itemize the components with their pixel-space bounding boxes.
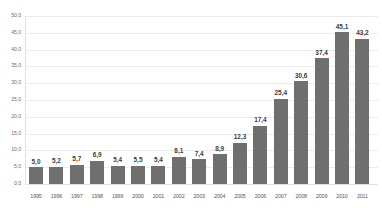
- bar-value-label: 5,4: [154, 157, 163, 163]
- bar-group[interactable]: 30,6: [294, 16, 308, 184]
- bar-group[interactable]: 43,2: [355, 16, 369, 184]
- bar-group[interactable]: 45,1: [335, 16, 349, 184]
- y-tick-label: 20,0: [11, 114, 21, 119]
- bar[interactable]: [111, 166, 125, 184]
- x-axis: 1995199619971998199920002001200220032004…: [26, 186, 378, 206]
- bar-group[interactable]: 8,1: [172, 16, 186, 184]
- x-tick-label: 1997: [66, 194, 88, 199]
- x-tick-label: 2006: [249, 194, 271, 199]
- y-tick-label: 0,0: [14, 181, 21, 186]
- bar[interactable]: [335, 32, 349, 184]
- bar-value-label: 25,4: [275, 90, 287, 96]
- x-tick-label: 2009: [311, 194, 333, 199]
- bar-value-label: 43,2: [356, 30, 368, 36]
- bar-group[interactable]: 17,4: [253, 16, 267, 184]
- bar[interactable]: [274, 99, 288, 184]
- x-tick-label: 2011: [351, 194, 373, 199]
- x-tick-label: 1999: [107, 194, 129, 199]
- x-tick-label: 2007: [270, 194, 292, 199]
- bar[interactable]: [90, 161, 104, 184]
- bar-value-label: 30,6: [295, 73, 307, 79]
- bar-chart: 0,05,010,015,020,025,030,035,040,045,050…: [0, 0, 382, 208]
- x-tick-label: 2010: [331, 194, 353, 199]
- bar[interactable]: [253, 126, 267, 184]
- y-tick-label: 15,0: [11, 131, 21, 136]
- bar-group[interactable]: 5,0: [29, 16, 43, 184]
- gridline: [26, 184, 378, 185]
- plot-area: 5,05,25,76,95,45,55,48,17,48,912,317,425…: [26, 16, 378, 184]
- bar-value-label: 5,2: [52, 158, 61, 164]
- bar-group[interactable]: 5,4: [151, 16, 165, 184]
- bar[interactable]: [192, 159, 206, 184]
- bar-value-label: 8,1: [174, 148, 183, 154]
- bar[interactable]: [49, 167, 63, 184]
- x-tick-label: 2003: [188, 194, 210, 199]
- bar-value-label: 45,1: [336, 24, 348, 30]
- bar[interactable]: [294, 81, 308, 184]
- bar-group[interactable]: 5,5: [131, 16, 145, 184]
- bar-group[interactable]: 7,4: [192, 16, 206, 184]
- bar[interactable]: [315, 58, 329, 184]
- bar-value-label: 17,4: [254, 117, 266, 123]
- bar-group[interactable]: 37,4: [315, 16, 329, 184]
- x-tick-label: 2004: [209, 194, 231, 199]
- y-tick-label: 30,0: [11, 81, 21, 86]
- bar-group[interactable]: 6,9: [90, 16, 104, 184]
- x-tick-label: 2002: [168, 194, 190, 199]
- bar-group[interactable]: 8,9: [213, 16, 227, 184]
- x-tick-label: 1996: [45, 194, 67, 199]
- bar-group[interactable]: 12,3: [233, 16, 247, 184]
- bar[interactable]: [151, 166, 165, 184]
- bar-group[interactable]: 5,7: [70, 16, 84, 184]
- x-tick-label: 2001: [147, 194, 169, 199]
- y-axis: 0,05,010,015,020,025,030,035,040,045,050…: [0, 16, 24, 184]
- bar-value-label: 5,7: [72, 156, 81, 162]
- y-tick-label: 40,0: [11, 47, 21, 52]
- bar[interactable]: [355, 39, 369, 184]
- y-tick-label: 25,0: [11, 97, 21, 102]
- bar-value-label: 12,3: [234, 134, 246, 140]
- x-tick-label: 2008: [290, 194, 312, 199]
- y-tick-label: 5,0: [14, 165, 21, 170]
- bar[interactable]: [172, 157, 186, 184]
- y-tick-label: 50,0: [11, 13, 21, 18]
- bar[interactable]: [29, 167, 43, 184]
- bar[interactable]: [233, 143, 247, 184]
- x-tick-label: 1998: [86, 194, 108, 199]
- x-tick-label: 1995: [25, 194, 47, 199]
- bar-value-label: 5,5: [134, 157, 143, 163]
- y-tick-label: 10,0: [11, 148, 21, 153]
- bar[interactable]: [213, 154, 227, 184]
- bar-value-label: 5,4: [113, 157, 122, 163]
- x-tick-label: 2005: [229, 194, 251, 199]
- x-tick-label: 2000: [127, 194, 149, 199]
- bar[interactable]: [131, 166, 145, 184]
- bar-group[interactable]: 25,4: [274, 16, 288, 184]
- y-tick-label: 35,0: [11, 64, 21, 69]
- y-tick-label: 45,0: [11, 30, 21, 35]
- bar-group[interactable]: 5,2: [49, 16, 63, 184]
- bar-value-label: 37,4: [315, 50, 327, 56]
- bar-group[interactable]: 5,4: [111, 16, 125, 184]
- bar-value-label: 7,4: [195, 151, 204, 157]
- bar-value-label: 5,0: [32, 159, 41, 165]
- bar-value-label: 8,9: [215, 146, 224, 152]
- bar[interactable]: [70, 165, 84, 184]
- bar-value-label: 6,9: [93, 152, 102, 158]
